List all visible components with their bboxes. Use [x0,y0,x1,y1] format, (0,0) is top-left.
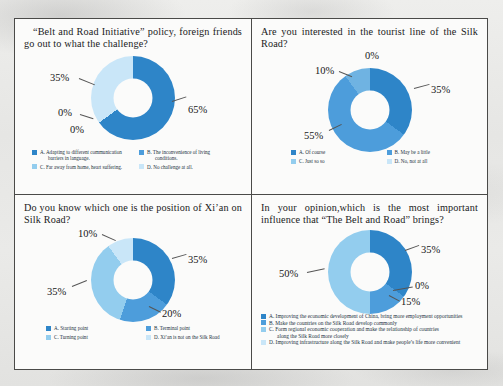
legend-item[interactable]: B. Make the countries on the Silk Road d… [261,320,478,327]
legend-label: C. Just so so [299,158,324,164]
chart-1-label-35: 35% [50,72,69,83]
chart-2-leader-35 [414,84,430,89]
legend-item[interactable]: D. Improving infrastructure along the Si… [261,339,478,346]
legend-item[interactable]: C. Far away from home, heart suffering. [32,164,133,170]
chart-2-label-35: 35% [431,84,450,95]
legend-item[interactable]: D. No challenge at all. [139,164,240,170]
legend-swatch-icon [261,320,266,325]
chart-3-label-35a: 35% [188,254,207,265]
chart-2-label-10: 10% [315,65,334,76]
chart-panel-2: Are you interested in the tourist line o… [251,18,488,194]
chart-panel-3: Do you know which one is the position of… [14,194,251,370]
legend-label-cont: barriers in language. [40,155,122,161]
legend-item[interactable]: A. Adapting to different communication b… [32,149,133,162]
chart-3-leader-35c [72,280,87,287]
legend-label: D. Improving infrastructure along the Si… [269,339,460,345]
legend-swatch-icon [46,326,51,331]
chart-4-label-0: 0% [415,280,429,291]
chart-3-label-20: 20% [162,308,181,319]
legend-item[interactable]: C. Turning point [46,334,140,340]
chart-panel-1: “Belt and Road Initiative” policy, forei… [14,18,251,194]
legend-item[interactable]: D. No, not at all [387,158,477,164]
legend-swatch-icon [146,335,151,340]
legend-label: A. Adapting to different communication [40,149,122,155]
chart-3-label-35c: 35% [47,286,66,297]
chart-2-title: Are you interested in the tourist line o… [261,26,478,51]
legend-label-cont: conditions. [147,155,210,161]
survey-chart-grid: “Belt and Road Initiative” policy, forei… [14,18,488,370]
chart-4-leader-50 [307,268,325,273]
chart-3-plot: 10% 35% 35% 20% [22,228,244,324]
legend-swatch-icon [32,150,37,155]
legend-label: D. No challenge at all. [147,164,193,170]
chart-panel-4: In your opinion,which is the most import… [251,194,488,370]
chart-4-title: In your opinion,which is the most import… [261,202,478,227]
legend-label: B. The inconvenience of living [147,149,210,155]
chart-3-title: Do you know which one is the position of… [24,202,242,227]
legend-swatch-icon [146,326,151,331]
chart-3-legend: A. Starting point B. Terminal point C. T… [22,325,244,341]
legend-item[interactable]: B. Terminal point [146,325,240,331]
legend-label: D. No, not at all [395,158,428,164]
donut-chart-1 [91,56,175,140]
legend-label: C. Far away from home, heart suffering. [40,164,122,170]
donut-chart-2 [328,68,412,152]
legend-label: C. Turning point [54,334,88,340]
legend-label: D. Xi’an is not on the Silk Road [154,334,220,340]
legend-label: A. Of course [299,149,325,155]
chart-4-plot: 35% 0% 15% 50% [259,228,480,312]
chart-4-legend: A. Improving the economic development of… [259,313,480,346]
chart-1-legend: A. Adapting to different communication b… [22,149,244,170]
chart-2-label-0: 0% [365,50,379,61]
legend-label-cont: along the Silk Road more closely [269,333,439,340]
legend-label: B. Make the countries on the Silk Road d… [269,320,397,326]
chart-1-label-65: 65% [188,104,207,115]
legend-swatch-icon [291,159,296,164]
legend-swatch-icon [261,314,266,319]
legend-swatch-icon [32,164,37,169]
legend-swatch-icon [46,335,51,340]
chart-1-label-0-c: 0% [58,107,72,118]
chart-1-plot: 65% 35% 0% 0% [22,52,244,148]
legend-label: B. Terminal point [154,325,190,331]
legend-item[interactable]: B. The inconvenience of living condition… [139,149,240,162]
legend-item[interactable]: A. Starting point [46,325,140,331]
legend-swatch-icon [261,340,266,345]
chart-1-label-0-d: 0% [70,124,84,135]
chart-3-label-10: 10% [78,228,97,239]
legend-swatch-icon [261,327,266,332]
legend-item[interactable]: C. Just so so [291,158,381,164]
chart-1-title: “Belt and Road Initiative” policy, forei… [24,26,242,51]
legend-label: A. Starting point [54,325,88,331]
chart-2-label-55: 55% [304,130,323,141]
chart-2-plot: 0% 10% 35% 55% [259,52,480,148]
legend-swatch-icon [387,159,392,164]
legend-swatch-icon [139,150,144,155]
legend-item[interactable]: D. Xi’an is not on the Silk Road [146,334,240,340]
legend-label: C. Form regional economic cooperation an… [269,326,439,332]
legend-swatch-icon [139,164,144,169]
legend-item[interactable]: C. Form regional economic cooperation an… [261,326,478,339]
chart-4-label-15: 15% [401,296,420,307]
chart-4-label-35: 35% [421,244,440,255]
legend-swatch-icon [291,150,296,155]
chart-4-label-50: 50% [279,268,298,279]
